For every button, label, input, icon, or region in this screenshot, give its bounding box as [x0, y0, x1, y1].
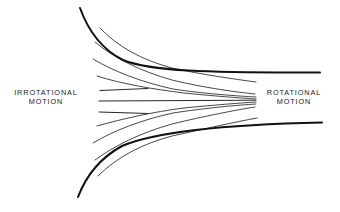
label-irrotational-motion: IRROTATIONAL MOTION	[8, 88, 84, 106]
label-rotational-line1: ROTATIONAL	[258, 88, 330, 97]
streamline-figure: IRROTATIONAL MOTION ROTATIONAL MOTION	[0, 0, 340, 212]
segment-lower-short	[99, 112, 148, 114]
label-irrotational-line1: IRROTATIONAL	[8, 88, 84, 97]
segment-upper-short	[100, 89, 148, 91]
label-rotational-line2: MOTION	[258, 97, 330, 106]
label-rotational-motion: ROTATIONAL MOTION	[258, 88, 330, 106]
label-irrotational-line2: MOTION	[8, 97, 84, 106]
segment-center	[99, 100, 256, 101]
